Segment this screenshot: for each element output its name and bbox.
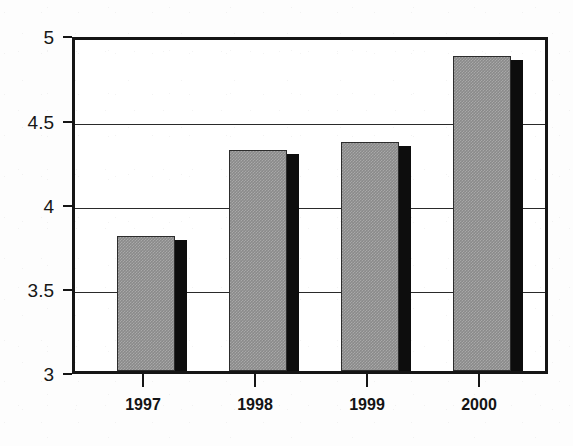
bar-group-1998[interactable] [229, 150, 299, 371]
bar-2000[interactable] [453, 56, 511, 371]
y-tick-3-5 [63, 289, 72, 291]
x-axis-label-1998: 1998 [237, 396, 273, 414]
y-axis-label-4: 4 [43, 197, 54, 216]
bar-1999[interactable] [341, 142, 399, 371]
x-tick-1997 [142, 374, 144, 387]
y-axis-label-4-5: 4.5 [28, 113, 54, 132]
bar-shadow-1999 [398, 146, 411, 371]
chart-page: (cut off at top edge) 5 4.5 4 3.5 3 [0, 0, 573, 446]
y-tick-5 [63, 36, 72, 38]
x-axis-label-1997: 1997 [125, 396, 161, 414]
y-tick-4 [63, 205, 72, 207]
x-axis-label-1999: 1999 [349, 396, 385, 414]
bar-shadow-2000 [510, 60, 523, 371]
y-axis-label-5: 5 [43, 28, 54, 47]
plot-area [72, 37, 548, 374]
y-tick-3 [63, 373, 72, 375]
bar-group-1999[interactable] [341, 142, 411, 371]
x-axis-label-2000: 2000 [461, 396, 497, 414]
bar-shadow-1998 [286, 154, 299, 371]
bar-group-2000[interactable] [453, 56, 523, 371]
x-tick-1998 [254, 374, 256, 387]
clipped-title-region: (cut off at top edge) [0, 0, 573, 6]
bar-group-1997[interactable] [117, 236, 187, 371]
y-tick-4-5 [63, 121, 72, 123]
y-axis-label-3: 3 [43, 365, 54, 384]
y-axis-label-3-5: 3.5 [28, 281, 54, 300]
bar-1997[interactable] [117, 236, 175, 371]
bar-1998[interactable] [229, 150, 287, 371]
x-tick-2000 [478, 374, 480, 387]
bar-shadow-1997 [174, 240, 187, 371]
x-tick-1999 [366, 374, 368, 387]
